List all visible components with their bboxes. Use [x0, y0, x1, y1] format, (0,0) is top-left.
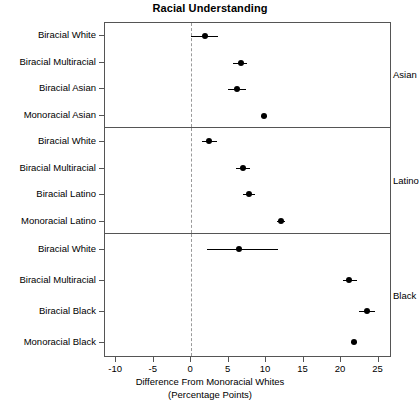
zero-reference-line	[191, 23, 192, 127]
x-axis-tick-label: 0	[175, 364, 205, 374]
y-axis-tick	[99, 115, 104, 116]
y-axis-tick-label: Biracial Asian	[0, 83, 96, 93]
x-axis-tick-label: 20	[325, 364, 355, 374]
x-axis-tick	[115, 357, 116, 362]
y-axis-tick-label: Biracial Multiracial	[0, 57, 96, 67]
y-axis-tick	[99, 141, 104, 142]
error-bar	[207, 249, 278, 250]
data-point[interactable]	[238, 60, 244, 66]
data-point[interactable]	[278, 218, 284, 224]
zero-reference-line	[191, 234, 192, 356]
x-axis-tick-label: 15	[288, 364, 318, 374]
x-axis-tick-label: 5	[213, 364, 243, 374]
y-axis-tick	[99, 88, 104, 89]
y-axis-tick-label: Biracial Multiracial	[0, 163, 96, 173]
y-axis-tick-label: Biracial White	[0, 136, 96, 146]
y-axis-tick-label: Monoracial Asian	[0, 110, 96, 120]
y-axis-tick	[99, 168, 104, 169]
y-axis-tick	[99, 280, 104, 281]
data-point[interactable]	[206, 138, 212, 144]
x-axis-tick	[153, 357, 154, 362]
x-axis-tick	[228, 357, 229, 362]
y-axis-tick-label: Biracial White	[0, 244, 96, 254]
y-axis-tick-label: Biracial Latino	[0, 189, 96, 199]
chart-container: Racial Understanding -10-50510152025 Dif…	[0, 0, 420, 414]
data-point[interactable]	[234, 86, 240, 92]
data-point[interactable]	[236, 246, 242, 252]
x-axis-tick	[190, 357, 191, 362]
zero-reference-line	[191, 128, 192, 233]
y-axis-tick-label: Biracial White	[0, 30, 96, 40]
y-axis-tick	[99, 249, 104, 250]
y-axis-tick	[99, 342, 104, 343]
y-axis-tick-label: Monoracial Black	[0, 337, 96, 347]
panel-strip-label-asian: Asian	[393, 70, 420, 80]
y-axis-tick	[99, 221, 104, 222]
y-axis-tick-label: Biracial Black	[0, 306, 96, 316]
panel-black	[104, 234, 391, 357]
y-axis-tick-label: Biracial Multiracial	[0, 275, 96, 285]
data-point[interactable]	[240, 165, 246, 171]
x-axis-title-line2: (Percentage Points)	[0, 389, 420, 401]
y-axis-tick	[99, 35, 104, 36]
x-axis-tick	[265, 357, 266, 362]
x-axis-tick-label: 10	[250, 364, 280, 374]
y-axis-tick	[99, 194, 104, 195]
y-axis-tick-label: Monoracial Latino	[0, 216, 96, 226]
panel-latino	[104, 128, 391, 234]
x-axis-tick	[340, 357, 341, 362]
y-axis-tick	[99, 62, 104, 63]
x-axis-tick-label: 25	[363, 364, 393, 374]
x-axis-tick-label: -10	[100, 364, 130, 374]
panel-strip-label-latino: Latino	[393, 176, 420, 186]
panel-strip-label-black: Black	[393, 291, 420, 301]
data-point[interactable]	[261, 113, 267, 119]
chart-title: Racial Understanding	[0, 2, 420, 14]
data-point[interactable]	[364, 308, 370, 314]
x-axis-tick-label: -5	[138, 364, 168, 374]
x-axis-tick	[378, 357, 379, 362]
x-axis-title-line1: Difference From Monoracial Whites	[0, 376, 420, 388]
y-axis-tick	[99, 311, 104, 312]
x-axis-tick	[303, 357, 304, 362]
data-point[interactable]	[246, 191, 252, 197]
data-point[interactable]	[202, 33, 208, 39]
panel-asian	[104, 22, 391, 128]
data-point[interactable]	[346, 277, 352, 283]
data-point[interactable]	[351, 339, 357, 345]
